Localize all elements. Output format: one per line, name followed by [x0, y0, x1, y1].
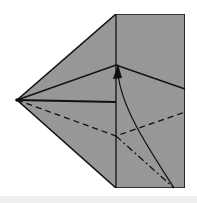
left-tip-point — [15, 98, 19, 102]
origami-diagram-svg — [0, 0, 197, 203]
bottom-band — [0, 196, 197, 203]
origami-diagram — [0, 0, 197, 203]
